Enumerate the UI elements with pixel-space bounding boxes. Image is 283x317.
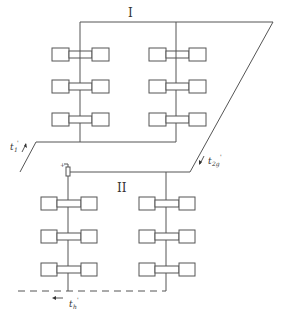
- supply-1-prime: ': [17, 139, 19, 146]
- supply-1-label-group: t 1 ': [10, 139, 27, 153]
- zone-2-radiator-row-1-right: [139, 197, 195, 210]
- heating-schematic: I: [0, 0, 283, 317]
- zone-2-radiator-row-3-left: [41, 263, 97, 276]
- diagram-canvas: I: [0, 0, 283, 317]
- zone-1-label: I: [128, 6, 133, 20]
- valve-icon: [66, 167, 70, 176]
- zone-1: I: [20, 6, 273, 172]
- zone-2-radiator-row-3-right: [139, 263, 195, 276]
- return-label-group: t h ': [52, 296, 79, 310]
- arrow-head-icon: [52, 296, 56, 300]
- zone-1-radiator-row-3-right: [149, 113, 206, 126]
- zone-2-label: II: [117, 181, 127, 195]
- zone-2-radiator-row-2-right: [139, 230, 195, 243]
- supply-2-subscript: 2g: [211, 160, 220, 168]
- diagonal-return-pipe: [20, 142, 36, 172]
- zone-2-radiator-row-1-left: [41, 197, 97, 210]
- valve-mark: +: [60, 161, 65, 168]
- zone-2-radiator-row-2-left: [41, 230, 97, 243]
- supply-2-label-group: t 2g ': [199, 153, 222, 168]
- supply-1-subscript: 1: [14, 146, 18, 153]
- supply-2-prime: ': [220, 153, 222, 160]
- return-subscript: h: [73, 303, 77, 310]
- zone-1-radiator-row-1-right: [149, 48, 206, 61]
- return-prime: ': [77, 296, 79, 303]
- zone-1-radiator-row-2-right: [149, 80, 206, 93]
- diagonal-supply-pipe: [190, 22, 273, 172]
- zone-2: II +: [18, 161, 195, 291]
